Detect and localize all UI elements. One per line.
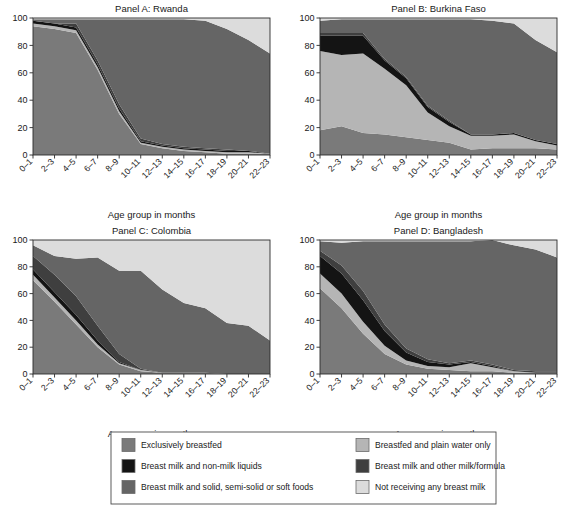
y-tick-label: 80 xyxy=(304,41,314,51)
y-tick-label: 20 xyxy=(17,342,27,352)
y-tick-label: 60 xyxy=(17,68,27,78)
panel-title: Panel B: Burkina Faso xyxy=(391,3,486,14)
legend-item: Not receiving any breast milk xyxy=(356,481,486,494)
legend-item: Breast milk and solid, semi-solid or sof… xyxy=(122,481,313,494)
y-tick-label: 80 xyxy=(304,262,314,272)
y-tick-label: 40 xyxy=(17,316,27,326)
stacked-areas xyxy=(33,240,270,374)
x-axis-title: Age group in months xyxy=(108,209,196,220)
legend-item: Breast milk and other milk/formula xyxy=(356,460,505,473)
legend-swatch-right-1 xyxy=(356,460,369,473)
legend-label: Breast milk and non-milk liquids xyxy=(141,461,262,471)
stacked-areas xyxy=(320,18,557,155)
y-tick-label: 20 xyxy=(17,123,27,133)
legend-label: Breast milk and solid, semi-solid or sof… xyxy=(141,482,313,492)
panel-title: Panel A: Rwanda xyxy=(115,3,189,14)
y-tick-label: 100 xyxy=(12,13,27,23)
panel-title: Panel C: Colombia xyxy=(112,225,192,236)
panel-title: Panel D: Bangladesh xyxy=(394,225,483,236)
y-tick-label: 40 xyxy=(304,95,314,105)
legend-swatch-left-1 xyxy=(122,460,135,473)
y-tick-label: 20 xyxy=(304,123,314,133)
stacked-areas xyxy=(320,240,557,374)
legend-label: Not receiving any breast milk xyxy=(375,482,486,492)
y-tick-label: 100 xyxy=(299,13,314,23)
y-tick-label: 20 xyxy=(304,342,314,352)
y-tick-label: 40 xyxy=(17,95,27,105)
infant-feeding-stacked-area-figure: Panel A: Rwanda0204060801000–12–34–56–78… xyxy=(0,0,577,514)
legend-swatch-right-2 xyxy=(356,481,369,494)
y-tick-label: 100 xyxy=(12,235,27,245)
chart-legend: Exclusively breastfedBreast milk and non… xyxy=(111,432,505,504)
legend-item: Breastfed and plain water only xyxy=(356,439,491,452)
legend-item: Breast milk and non-milk liquids xyxy=(122,460,262,473)
legend-swatch-left-0 xyxy=(122,439,135,452)
y-tick-label: 80 xyxy=(17,262,27,272)
legend-label: Exclusively breastfed xyxy=(141,440,222,450)
y-tick-label: 60 xyxy=(304,289,314,299)
y-tick-label: 40 xyxy=(304,316,314,326)
y-tick-label: 100 xyxy=(299,235,314,245)
y-tick-label: 60 xyxy=(304,68,314,78)
y-tick-label: 80 xyxy=(17,41,27,51)
stacked-areas xyxy=(33,18,270,155)
legend-swatch-right-0 xyxy=(356,439,369,452)
legend-label: Breastfed and plain water only xyxy=(375,440,491,450)
legend-swatch-left-2 xyxy=(122,481,135,494)
x-axis-title: Age group in months xyxy=(395,209,483,220)
y-tick-label: 60 xyxy=(17,289,27,299)
legend-label: Breast milk and other milk/formula xyxy=(375,461,505,471)
